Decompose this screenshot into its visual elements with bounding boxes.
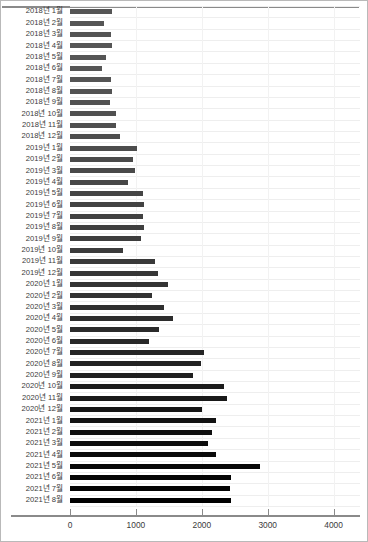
y-axis-tick-label: 2019년 10월 — [22, 246, 63, 254]
bar — [70, 293, 152, 298]
bar — [70, 327, 159, 332]
y-axis-tick-label: 2020년 10월 — [22, 382, 63, 390]
bar — [70, 464, 260, 469]
x-axis-line-left-extension — [11, 515, 71, 517]
y-axis-tick-label: 2020년 1월 — [26, 280, 63, 288]
bar — [70, 498, 231, 503]
bar — [70, 168, 135, 173]
bar — [70, 282, 168, 287]
bar — [70, 214, 143, 219]
x-axis-tick — [334, 509, 335, 516]
bar — [70, 259, 155, 264]
y-axis-tick-label: 2018년 11월 — [22, 121, 63, 129]
bar — [70, 100, 110, 105]
y-axis-tick-label: 2018년 9월 — [26, 98, 63, 106]
y-axis-tick-label: 2019년 11월 — [22, 257, 63, 265]
bar — [70, 157, 133, 162]
bar — [70, 361, 201, 366]
x-axis-tick-label: 0 — [68, 520, 73, 530]
bar — [70, 9, 112, 14]
bar — [70, 441, 208, 446]
y-axis-tick-label: 2019년 12월 — [22, 269, 63, 277]
y-axis-tick-label: 2020년 7월 — [26, 348, 63, 356]
bar — [70, 225, 144, 230]
y-axis-tick-label: 2019년 4월 — [26, 178, 63, 186]
bar — [70, 373, 193, 378]
bar — [70, 123, 116, 128]
plot-area — [70, 6, 360, 506]
y-axis-tick-label: 2018년 2월 — [26, 19, 63, 27]
y-axis-tick-label: 2021년 7월 — [26, 485, 63, 493]
x-axis-tick-label: 2000 — [192, 520, 211, 530]
y-axis-tick-label: 2020년 11월 — [22, 394, 63, 402]
bar — [70, 43, 112, 48]
y-axis-tick-label: 2019년 7월 — [26, 212, 63, 220]
gridline-horizontal — [70, 506, 360, 507]
bar — [70, 418, 216, 423]
y-axis-tick-label: 2018년 6월 — [26, 64, 63, 72]
y-axis-tick-label: 2020년 6월 — [26, 337, 63, 345]
bar — [70, 55, 106, 60]
x-axis-tick-label: 4000 — [324, 520, 343, 530]
y-axis-tick-label: 2021년 6월 — [26, 473, 63, 481]
y-axis-tick-label: 2018년 7월 — [26, 76, 63, 84]
bar — [70, 180, 128, 185]
bar — [70, 32, 111, 37]
bar — [70, 350, 204, 355]
bar — [70, 271, 158, 276]
y-axis-tick-label: 2020년 8월 — [26, 360, 63, 368]
y-axis-tick-label: 2020년 4월 — [26, 314, 63, 322]
y-axis-tick-label: 2018년 12월 — [22, 132, 63, 140]
bar — [70, 146, 137, 151]
x-axis-line — [70, 515, 360, 517]
bar — [70, 305, 164, 310]
y-axis-tick-label: 2020년 3월 — [26, 303, 63, 311]
bar — [70, 77, 111, 82]
bar — [70, 407, 202, 412]
y-axis-tick-label: 2021년 2월 — [26, 428, 63, 436]
bar — [70, 89, 112, 94]
y-axis-tick-label: 2019년 5월 — [26, 189, 63, 197]
bar — [70, 248, 123, 253]
y-axis-tick-label: 2021년 5월 — [26, 462, 63, 470]
x-axis-tick-label: 3000 — [258, 520, 277, 530]
y-axis-tick-label: 2018년 3월 — [26, 30, 63, 38]
bar — [70, 111, 116, 116]
bar — [70, 486, 230, 491]
y-axis-tick-label: 2019년 8월 — [26, 223, 63, 231]
bar — [70, 475, 231, 480]
bar — [70, 339, 149, 344]
y-axis-tick-label: 2021년 4월 — [26, 451, 63, 459]
y-axis-tick-label: 2018년 4월 — [26, 42, 63, 50]
x-axis-tick — [268, 509, 269, 516]
bar — [70, 452, 216, 457]
bar — [70, 236, 141, 241]
x-axis-tick — [202, 509, 203, 516]
y-axis-tick-label: 2018년 8월 — [26, 87, 63, 95]
y-axis-category-labels: 2018년 1월2018년 2월2018년 3월2018년 4월2018년 5월… — [1, 6, 67, 506]
bar — [70, 396, 227, 401]
y-axis-tick-label: 2020년 5월 — [26, 326, 63, 334]
y-axis-tick-label: 2018년 1월 — [26, 7, 63, 15]
y-axis-tick-label: 2020년 12월 — [22, 405, 63, 413]
y-axis-tick-label: 2021년 1월 — [26, 417, 63, 425]
bars-layer — [70, 6, 360, 506]
bar — [70, 430, 212, 435]
y-axis-tick-label: 2020년 2월 — [26, 292, 63, 300]
x-axis-tick — [70, 509, 71, 516]
y-axis-tick-label: 2021년 8월 — [26, 496, 63, 504]
horizontal-bar-chart: 2018년 1월2018년 2월2018년 3월2018년 4월2018년 5월… — [0, 0, 368, 542]
y-axis-tick-label: 2018년 5월 — [26, 53, 63, 61]
bar — [70, 66, 102, 71]
y-axis-tick-label: 2021년 3월 — [26, 439, 63, 447]
y-axis-tick-label: 2020년 9월 — [26, 371, 63, 379]
y-axis-tick-label: 2019년 1월 — [26, 144, 63, 152]
bar — [70, 202, 144, 207]
y-axis-tick-label: 2019년 9월 — [26, 235, 63, 243]
y-axis-tick-label: 2018년 10월 — [22, 110, 63, 118]
y-axis-tick-label: 2019년 2월 — [26, 155, 63, 163]
y-axis-tick-label: 2019년 6월 — [26, 201, 63, 209]
x-axis-tick-label: 1000 — [127, 520, 146, 530]
y-axis-tick-label: 2019년 3월 — [26, 167, 63, 175]
bar — [70, 134, 120, 139]
